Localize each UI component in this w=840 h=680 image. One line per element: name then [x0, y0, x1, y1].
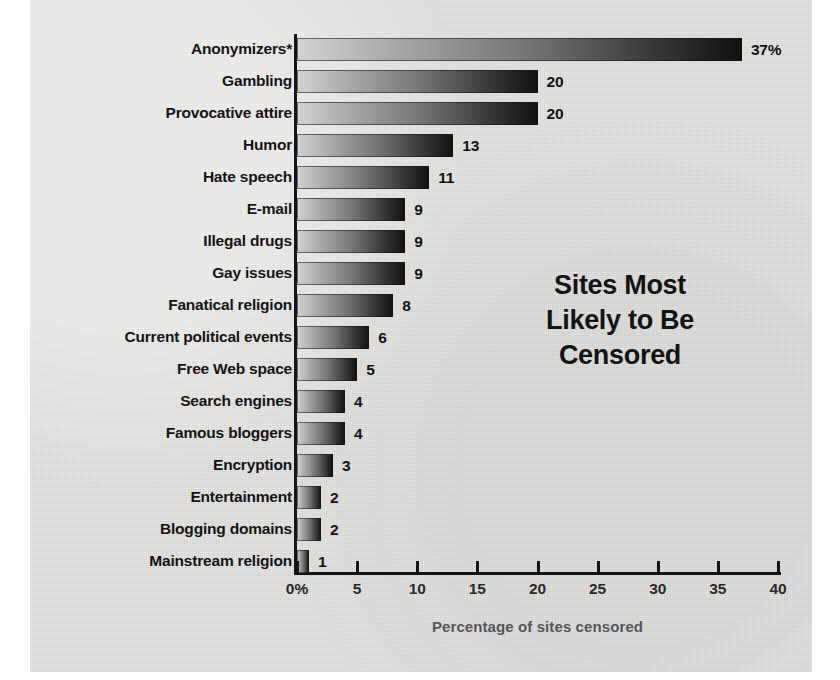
x-tick-0 [296, 561, 299, 573]
value-label-anonymizers: 37% [751, 41, 781, 59]
value-label-hate-speech: 11 [438, 169, 454, 187]
category-label-free-web-space: Free Web space [177, 360, 292, 378]
bar-anonymizers [297, 38, 742, 61]
chart-title-line-3: Censored [470, 338, 770, 373]
category-label-humor: Humor [243, 136, 292, 154]
value-label-blogging-domains: 2 [330, 521, 338, 539]
value-label-free-web-space: 5 [366, 361, 374, 379]
bar-search-engines [297, 390, 345, 413]
category-label-gay-issues: Gay issues [212, 264, 292, 282]
x-tick-label-2: 10 [409, 580, 426, 598]
category-label-email: E-mail [247, 200, 292, 218]
x-tick-7 [717, 561, 720, 573]
bar-provocative-attire [297, 102, 538, 125]
category-label-provocative-attire: Provocative attire [166, 104, 293, 122]
x-tick-8 [777, 561, 780, 573]
chart-page: Anonymizers* Gambling Provocative attire… [0, 0, 840, 680]
value-label-search-engines: 4 [354, 393, 362, 411]
bar-encryption [297, 454, 333, 477]
category-label-fanatical-religion: Fanatical religion [168, 296, 292, 314]
category-label-mainstream-religion: Mainstream religion [149, 552, 292, 570]
x-tick-label-1: 5 [353, 580, 362, 598]
category-label-search-engines: Search engines [180, 392, 292, 410]
bar-famous-bloggers [297, 422, 345, 445]
category-label-illegal-drugs: Illegal drugs [203, 232, 292, 250]
chart-title-line-1: Sites Most [470, 268, 770, 303]
category-label-encryption: Encryption [213, 456, 292, 474]
bar-chart: Anonymizers* Gambling Provocative attire… [0, 0, 840, 680]
x-tick-label-0: 0% [286, 580, 308, 598]
x-tick-4 [537, 561, 540, 573]
x-tick-6 [657, 561, 660, 573]
category-label-blogging-domains: Blogging domains [160, 520, 292, 538]
category-label-entertainment: Entertainment [190, 488, 292, 506]
x-tick-2 [416, 561, 419, 573]
x-tick-5 [597, 561, 600, 573]
value-label-illegal-drugs: 9 [414, 233, 422, 251]
x-tick-1 [356, 561, 359, 573]
x-tick-label-6: 30 [649, 580, 666, 598]
value-label-famous-bloggers: 4 [354, 425, 362, 443]
bar-humor [297, 134, 453, 157]
value-label-encryption: 3 [342, 457, 350, 475]
x-tick-label-5: 25 [589, 580, 606, 598]
x-tick-label-8: 40 [769, 580, 786, 598]
value-label-gay-issues: 9 [414, 265, 422, 283]
value-label-email: 9 [414, 201, 422, 219]
x-axis-title: Percentage of sites censored [294, 618, 781, 635]
value-label-mainstream-religion: 1 [318, 553, 326, 571]
category-label-famous-bloggers: Famous bloggers [166, 424, 292, 442]
value-label-provocative-attire: 20 [547, 105, 564, 123]
x-tick-label-3: 15 [469, 580, 486, 598]
value-label-humor: 13 [462, 137, 479, 155]
bar-email [297, 198, 405, 221]
category-label-anonymizers: Anonymizers* [191, 40, 292, 58]
bar-entertainment [297, 486, 321, 509]
x-tick-label-4: 20 [529, 580, 546, 598]
x-tick-3 [476, 561, 479, 573]
value-label-current-political-events: 6 [378, 329, 386, 347]
value-label-gambling: 20 [547, 73, 564, 91]
bar-gambling [297, 70, 538, 93]
x-tick-label-7: 35 [709, 580, 726, 598]
value-label-entertainment: 2 [330, 489, 338, 507]
category-label-gambling: Gambling [222, 72, 292, 90]
bar-illegal-drugs [297, 230, 405, 253]
value-label-fanatical-religion: 8 [402, 297, 410, 315]
category-label-hate-speech: Hate speech [203, 168, 292, 186]
chart-title: Sites Most Likely to Be Censored [470, 268, 770, 373]
bar-blogging-domains [297, 518, 321, 541]
category-label-current-political-events: Current political events [125, 328, 292, 346]
bar-gay-issues [297, 262, 405, 285]
bar-current-political-events [297, 326, 369, 349]
chart-title-line-2: Likely to Be [470, 303, 770, 338]
bar-free-web-space [297, 358, 357, 381]
bar-fanatical-religion [297, 294, 393, 317]
bar-hate-speech [297, 166, 429, 189]
